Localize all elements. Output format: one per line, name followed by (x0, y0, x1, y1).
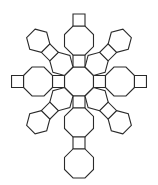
octagon-face-up-2 (65, 26, 94, 55)
octagon-face-left-2 (24, 67, 53, 96)
square-face-down-1 (73, 96, 85, 108)
square-face-right-1 (93, 76, 105, 88)
square-face-right-3 (134, 76, 146, 88)
square-face-left-1 (53, 76, 65, 88)
polyhedron-net-diagram (0, 0, 158, 185)
octagon-face-down-4 (65, 149, 94, 178)
square-face-down-3 (73, 137, 85, 149)
octagon-face-down-2 (65, 108, 94, 137)
net-faces (12, 14, 147, 178)
square-face-up-3 (73, 14, 85, 26)
square-face-left-3 (12, 76, 24, 88)
square-face-up-1 (73, 55, 85, 67)
octagon-face-right-2 (105, 67, 134, 96)
